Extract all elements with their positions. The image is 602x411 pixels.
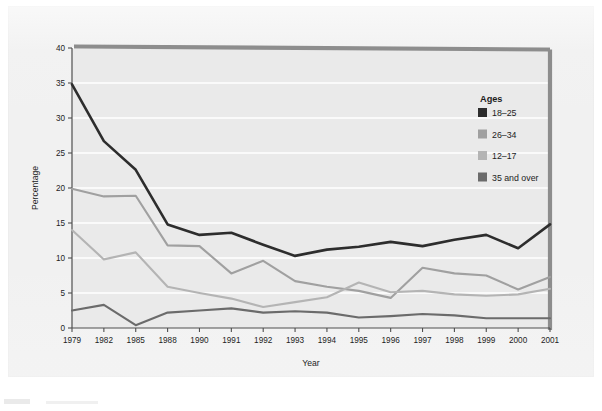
x-tick-label: 2001	[541, 336, 560, 345]
y-tick-label: 10	[56, 254, 66, 263]
x-tick-label: 1993	[286, 336, 305, 345]
y-tick-label: 35	[56, 79, 66, 88]
x-tick-label: 1996	[382, 336, 401, 345]
x-tick-label: 1999	[477, 336, 496, 345]
x-tick-label: 1994	[318, 336, 337, 345]
legend-title: Ages	[480, 94, 502, 104]
legend-label: 35 and over	[492, 173, 539, 183]
y-axis-title: Percentage	[30, 166, 40, 210]
line-chart: 0510152025303540 19791982198519881990199…	[0, 0, 602, 411]
legend-swatch	[478, 151, 487, 160]
x-tick-label: 1991	[222, 336, 241, 345]
x-tick-label: 1995	[350, 336, 369, 345]
y-axis-tick-labels: 0510152025303540	[56, 44, 66, 333]
legend-label: 26–34	[492, 130, 517, 140]
y-tick-label: 15	[56, 219, 66, 228]
legend-swatch	[478, 130, 487, 139]
page-bottom-margin	[0, 377, 602, 411]
scan-smudge-left	[4, 399, 30, 404]
figure-page: 0510152025303540 19791982198519881990199…	[0, 0, 602, 411]
y-tick-label: 5	[60, 289, 65, 298]
y-tick-label: 40	[56, 44, 66, 53]
y-tick-label: 0	[60, 324, 65, 333]
y-tick-label: 25	[56, 149, 66, 158]
x-tick-label: 1985	[127, 336, 146, 345]
x-axis-tick-labels: 1979198219851988199019911992199319941995…	[63, 336, 560, 345]
legend-label: 12–17	[492, 151, 517, 161]
x-tick-label: 2000	[509, 336, 528, 345]
x-tick-label: 1998	[445, 336, 464, 345]
legend-label: 18–25	[492, 108, 517, 118]
x-axis-title: Year	[302, 358, 320, 368]
scan-edge-top-artifact	[74, 47, 550, 50]
x-tick-label: 1979	[63, 336, 82, 345]
legend-swatch	[478, 108, 487, 117]
legend-swatch	[478, 173, 487, 182]
y-tick-label: 20	[56, 184, 66, 193]
x-tick-label: 1988	[158, 336, 177, 345]
x-tick-label: 1990	[190, 336, 209, 345]
scan-smudge-right	[46, 401, 98, 404]
x-tick-label: 1982	[95, 336, 114, 345]
y-tick-label: 30	[56, 114, 66, 123]
x-tick-label: 1992	[254, 336, 273, 345]
x-tick-label: 1997	[413, 336, 432, 345]
